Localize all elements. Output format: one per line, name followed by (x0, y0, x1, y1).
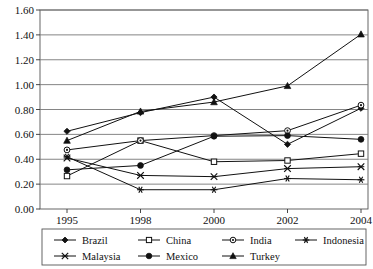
marker-open-square (146, 237, 151, 242)
y-axis-tick-label: 1.60 (15, 4, 35, 16)
y-axis-tick-label: 0.60 (15, 128, 35, 140)
marker-filled-circle (146, 253, 152, 259)
x-axis-tick-label: 2000 (203, 214, 226, 226)
chart-figure: 0.000.200.400.600.801.001.201.401.601995… (0, 0, 373, 269)
legend-label-indonesia: Indonesia (323, 235, 364, 246)
marker-circle-dot (66, 149, 68, 151)
y-axis-tick-label: 1.20 (15, 54, 35, 66)
marker-open-square (211, 159, 216, 164)
legend-label-india: India (250, 235, 272, 246)
y-axis-tick-label: 0.80 (15, 104, 35, 116)
chart-legend: BrazilChinaIndiaIndonesiaMalaysiaMexicoT… (42, 229, 366, 265)
marker-filled-circle (64, 167, 70, 173)
line-chart: 0.000.200.400.600.801.001.201.401.601995… (0, 0, 373, 269)
marker-open-square (64, 173, 69, 178)
legend-label-mexico: Mexico (166, 251, 198, 262)
y-axis-tick-label: 1.40 (15, 29, 35, 41)
x-axis-tick-label: 2002 (277, 214, 299, 226)
marker-filled-circle (138, 163, 144, 169)
x-axis-tick-label: 2004 (350, 214, 373, 226)
marker-filled-circle (358, 136, 364, 142)
marker-open-square (358, 151, 363, 156)
legend-label-malaysia: Malaysia (82, 251, 121, 262)
x-axis-tick-label: 1995 (56, 214, 79, 226)
y-axis-tick-label: 0.40 (15, 153, 35, 165)
marker-circle-dot (286, 130, 288, 132)
legend-label-turkey: Turkey (250, 251, 281, 262)
y-axis-tick-label: 0.00 (15, 203, 35, 215)
y-axis-tick-label: 0.20 (15, 178, 35, 190)
x-axis-tick-label: 1998 (130, 214, 153, 226)
y-axis-tick-label: 1.00 (15, 79, 35, 91)
marker-filled-circle (285, 133, 291, 139)
marker-circle-dot (360, 104, 362, 106)
marker-open-square (285, 158, 290, 163)
marker-filled-circle (211, 133, 217, 139)
marker-circle-dot (139, 140, 141, 142)
legend-label-brazil: Brazil (82, 235, 108, 246)
legend-label-china: China (166, 235, 191, 246)
marker-circle-dot (232, 239, 234, 241)
